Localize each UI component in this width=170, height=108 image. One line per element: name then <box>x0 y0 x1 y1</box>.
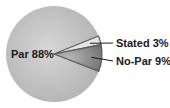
slice-label-no-par: No-Par 9% <box>116 55 170 67</box>
slice-label-stated: Stated 3% <box>116 37 169 49</box>
slice-label-par: Par 88% <box>11 48 54 60</box>
